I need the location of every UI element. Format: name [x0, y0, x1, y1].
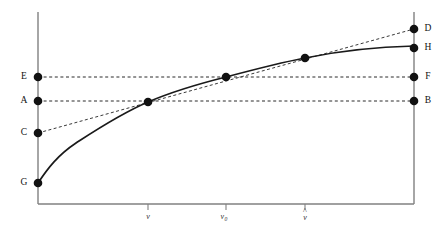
point-label-C: C — [21, 127, 27, 137]
point-label-B: B — [425, 95, 431, 105]
right-axis-points-group: D H F B — [410, 23, 432, 105]
point-label-D: D — [425, 23, 432, 33]
tick-label-v-zero: v0 — [221, 212, 228, 222]
point-label-F: F — [425, 71, 430, 81]
plot-canvas: v v0 ^ v E A C G D H — [0, 0, 442, 235]
point-marker-H — [410, 44, 419, 53]
figure-container: v v0 ^ v E A C G D H — [0, 0, 442, 235]
curve-point-at-v-hat — [301, 54, 310, 63]
axes-group — [38, 12, 414, 204]
tick-label-v-hat: v — [303, 213, 307, 222]
x-tick-marks-group — [148, 204, 305, 210]
tick-label-v: v — [146, 212, 150, 221]
point-marker-B — [410, 97, 419, 106]
point-marker-A — [34, 97, 43, 106]
point-label-E: E — [21, 71, 27, 81]
point-marker-G — [34, 179, 43, 188]
point-label-A: A — [21, 95, 28, 105]
point-label-H: H — [425, 42, 432, 52]
point-marker-E — [34, 73, 43, 82]
left-axis-points-group: E A C G — [21, 71, 43, 187]
point-marker-D — [410, 25, 419, 34]
curve-point-at-v-zero — [222, 73, 231, 82]
x-tick-labels-group: v v0 ^ v — [146, 207, 307, 222]
point-label-G: G — [21, 177, 28, 187]
point-marker-C — [34, 129, 43, 138]
point-marker-F — [410, 73, 419, 82]
tick-label-v-zero-subscript: 0 — [225, 216, 228, 222]
concave-utility-curve — [38, 46, 414, 183]
curve-point-at-v — [144, 98, 153, 107]
